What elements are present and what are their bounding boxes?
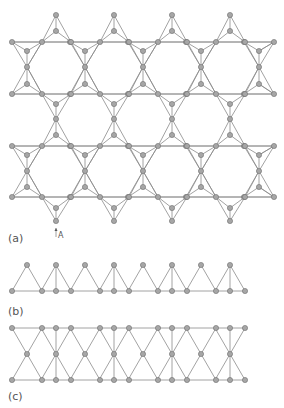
atom-node	[126, 325, 131, 330]
atom-node	[213, 91, 218, 96]
atom-node	[111, 116, 116, 121]
atom-node	[169, 101, 174, 106]
atom-node	[9, 377, 14, 382]
atom-node	[271, 91, 276, 96]
atom-node	[227, 116, 232, 121]
atom-node	[184, 325, 189, 330]
atom-node	[198, 64, 203, 69]
atom-node	[111, 351, 116, 356]
atom-node	[169, 116, 174, 121]
atom-node	[24, 64, 29, 69]
panel-label-c: (c)	[8, 390, 23, 403]
atom-node	[39, 39, 44, 44]
atom-node	[227, 218, 232, 223]
atom-node	[68, 325, 73, 330]
atom-node	[9, 91, 14, 96]
atom-node	[97, 143, 102, 148]
atom-node	[140, 351, 145, 356]
atom-node	[169, 262, 174, 267]
atom-node	[39, 91, 44, 96]
atom-node	[39, 194, 44, 199]
atom-node	[53, 262, 58, 267]
atom-node	[53, 101, 58, 106]
atom-node	[155, 325, 160, 330]
atom-node	[140, 81, 145, 86]
atom-node	[39, 377, 44, 382]
atom-node	[198, 168, 203, 173]
atom-node	[213, 194, 218, 199]
atom-node	[53, 325, 58, 330]
atom-node	[111, 377, 116, 382]
atom-node	[82, 48, 87, 53]
atom-node	[39, 143, 44, 148]
annotation-label-a: A	[58, 231, 63, 240]
atom-node	[155, 39, 160, 44]
atom-node	[53, 132, 58, 137]
atom-node	[111, 325, 116, 330]
atom-node	[82, 262, 87, 267]
atom-node	[68, 194, 73, 199]
atom-node	[227, 28, 232, 33]
atom-node	[256, 48, 261, 53]
atom-node	[53, 218, 58, 223]
atom-node	[24, 152, 29, 157]
atom-node	[140, 184, 145, 189]
atom-node	[242, 325, 247, 330]
atom-node	[256, 152, 261, 157]
atom-node	[271, 143, 276, 148]
atom-node	[227, 325, 232, 330]
atom-node	[169, 218, 174, 223]
atom-node	[169, 351, 174, 356]
atom-node	[169, 377, 174, 382]
atom-node	[53, 377, 58, 382]
atom-node	[82, 81, 87, 86]
atom-node	[82, 184, 87, 189]
atom-node	[9, 39, 14, 44]
atom-node	[198, 152, 203, 157]
atom-node	[184, 288, 189, 293]
atom-node	[227, 288, 232, 293]
atom-node	[140, 48, 145, 53]
atom-node	[242, 288, 247, 293]
atom-node	[24, 262, 29, 267]
atom-node	[126, 91, 131, 96]
atom-node	[256, 168, 261, 173]
atom-node	[53, 28, 58, 33]
atom-node	[140, 168, 145, 173]
atom-node	[24, 351, 29, 356]
atom-node	[111, 288, 116, 293]
atom-node	[68, 377, 73, 382]
atom-node	[227, 377, 232, 382]
atom-node	[24, 48, 29, 53]
atom-node	[155, 377, 160, 382]
atom-node	[97, 288, 102, 293]
atom-node	[140, 262, 145, 267]
atom-node	[227, 205, 232, 210]
atom-node	[39, 288, 44, 293]
atom-node	[24, 168, 29, 173]
atom-node	[111, 132, 116, 137]
atom-node	[140, 64, 145, 69]
atom-node	[140, 152, 145, 157]
atom-node	[111, 12, 116, 17]
atom-node	[198, 262, 203, 267]
atom-node	[198, 81, 203, 86]
atom-node	[111, 28, 116, 33]
atom-node	[39, 325, 44, 330]
atom-node	[126, 194, 131, 199]
atom-node	[24, 184, 29, 189]
atom-node	[227, 132, 232, 137]
atom-node	[242, 143, 247, 148]
tetrahedra-lattice-figure	[0, 0, 284, 408]
atom-node	[9, 143, 14, 148]
atom-node	[198, 351, 203, 356]
atom-node	[227, 262, 232, 267]
atom-node	[111, 262, 116, 267]
atom-node	[82, 351, 87, 356]
atom-node	[184, 377, 189, 382]
atom-node	[126, 377, 131, 382]
atom-node	[169, 205, 174, 210]
atom-node	[155, 194, 160, 199]
atom-node	[213, 288, 218, 293]
atom-node	[169, 28, 174, 33]
